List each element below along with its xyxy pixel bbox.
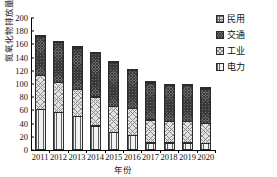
legend-item-label: 民用: [227, 12, 245, 25]
bar-segment-工业[interactable]: [72, 89, 83, 117]
x-axis-tick-label: 2018: [161, 152, 178, 162]
y-axis-tick-label: 120: [15, 66, 31, 76]
bar-segment-交通[interactable]: [127, 70, 138, 109]
y-axis-tick-label: 200: [15, 13, 31, 23]
legend-item-民用[interactable]: 民用: [216, 11, 274, 26]
bar-segment-交通[interactable]: [182, 85, 193, 121]
x-axis-title: 年份: [31, 163, 215, 175]
bar-segment-工业[interactable]: [35, 75, 46, 110]
x-axis-tick-label: 2012: [50, 152, 67, 162]
bar-group[interactable]: [127, 70, 138, 150]
bar-segment-工业[interactable]: [127, 108, 138, 135]
legend-item-电力[interactable]: 电力: [216, 59, 274, 74]
bar-series-container: [31, 18, 215, 150]
legend-swatch-icon: [216, 47, 224, 55]
bar-segment-电力[interactable]: [35, 109, 46, 150]
bar-group[interactable]: [182, 85, 193, 150]
bar-group[interactable]: [108, 62, 119, 150]
bar-segment-电力[interactable]: [72, 116, 83, 150]
legend-swatch-icon: [216, 63, 224, 71]
bar-segment-电力[interactable]: [127, 135, 138, 150]
x-axis-tick-label: 2016: [124, 152, 141, 162]
bar-segment-电力[interactable]: [53, 112, 64, 150]
bar-group[interactable]: [72, 47, 83, 150]
bar-group[interactable]: [145, 82, 156, 150]
legend-swatch-icon: [216, 31, 224, 39]
y-axis-tick-label: 0: [24, 145, 31, 155]
x-axis-tick-label: 2014: [87, 152, 104, 162]
y-axis-title: 氮氧化物排放量/万吨: [3, 0, 15, 87]
bar-segment-工业[interactable]: [182, 121, 193, 143]
y-axis-tick-label: 160: [15, 39, 31, 49]
legend-swatch-icon: [216, 15, 224, 23]
bar-segment-交通[interactable]: [72, 48, 83, 90]
x-axis-tick-label: 2015: [105, 152, 122, 162]
y-axis-tick-label: 20: [20, 132, 32, 142]
bar-segment-电力[interactable]: [200, 143, 211, 150]
bar-segment-电力[interactable]: [90, 126, 101, 150]
bar-segment-交通[interactable]: [108, 62, 119, 107]
x-axis-tick-label: 2013: [69, 152, 86, 162]
x-axis-tick-label: 2011: [32, 152, 49, 162]
x-axis-tick-label: 2019: [179, 152, 196, 162]
bar-segment-电力[interactable]: [145, 143, 156, 150]
y-axis-tick-label: 40: [20, 119, 32, 129]
bar-group[interactable]: [164, 85, 175, 150]
x-axis-tick-label: 2020: [197, 152, 214, 162]
legend-item-label: 交通: [227, 28, 245, 41]
y-axis-tick-label: 180: [15, 26, 31, 36]
bar-segment-电力[interactable]: [108, 132, 119, 150]
nox-emissions-stacked-bar-chart: 氮氧化物排放量/万吨 020406080100120140160180200 2…: [0, 0, 277, 177]
bar-segment-工业[interactable]: [200, 123, 211, 144]
bar-segment-交通[interactable]: [145, 83, 156, 121]
y-axis-tick-label: 80: [20, 92, 32, 102]
bar-segment-工业[interactable]: [164, 121, 175, 143]
legend-item-label: 工业: [227, 44, 245, 57]
x-axis-tick-mark: [215, 150, 216, 153]
y-axis-tick-label: 60: [20, 105, 32, 115]
bar-segment-工业[interactable]: [108, 106, 119, 132]
bar-segment-交通[interactable]: [90, 53, 101, 97]
bar-segment-交通[interactable]: [200, 89, 211, 124]
bar-group[interactable]: [200, 88, 211, 150]
y-axis-tick-label: 100: [15, 79, 31, 89]
bar-segment-工业[interactable]: [90, 97, 101, 127]
y-axis-tick-label: 140: [15, 53, 31, 63]
legend-item-工业[interactable]: 工业: [216, 43, 274, 58]
bar-group[interactable]: [90, 52, 101, 150]
bar-group[interactable]: [35, 35, 46, 150]
bar-segment-工业[interactable]: [145, 120, 156, 144]
chart-legend: 民用交通工业电力: [216, 11, 274, 75]
bar-group[interactable]: [53, 41, 64, 150]
bar-segment-交通[interactable]: [35, 36, 46, 76]
legend-item-交通[interactable]: 交通: [216, 27, 274, 42]
legend-item-label: 电力: [227, 60, 245, 73]
bar-segment-电力[interactable]: [182, 143, 193, 150]
x-axis-tick-label: 2017: [142, 152, 159, 162]
bar-segment-交通[interactable]: [164, 85, 175, 121]
bar-segment-工业[interactable]: [53, 82, 64, 113]
bar-segment-电力[interactable]: [164, 143, 175, 150]
bar-segment-交通[interactable]: [53, 42, 64, 83]
